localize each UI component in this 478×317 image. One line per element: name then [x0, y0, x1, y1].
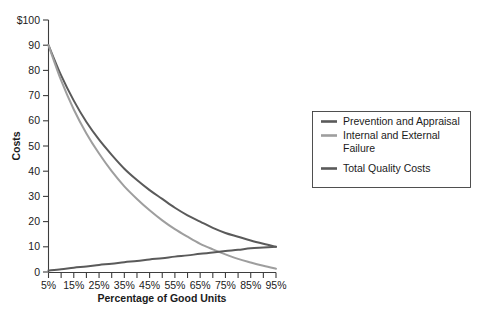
quality-cost-line-chart: $1009080706050403020100 Costs 5%15%25%35… — [0, 0, 478, 317]
x-tick-label: 55% — [164, 279, 185, 291]
x-tick-label: 45% — [139, 279, 160, 291]
y-axis-title: Costs — [10, 131, 22, 160]
legend-label-text: Failure — [343, 142, 375, 154]
x-tick-label: 75% — [215, 279, 236, 291]
x-tick-label: 35% — [114, 279, 135, 291]
chart-figure-root: $1009080706050403020100 Costs 5%15%25%35… — [0, 0, 478, 317]
y-tick-label: 0 — [34, 266, 40, 278]
y-tick-label: 10 — [28, 240, 40, 252]
y-tick-label: 20 — [28, 215, 40, 227]
x-tick-label: 85% — [240, 279, 261, 291]
y-tick-label: 90 — [28, 39, 40, 51]
x-tick-label: 65% — [190, 279, 211, 291]
x-tick-label: 15% — [63, 279, 84, 291]
plot-area-wrapper: $1009080706050403020100 Costs 5%15%25%35… — [0, 0, 478, 317]
y-tick-label: 70 — [28, 89, 40, 101]
legend-label-text: Prevention and Appraisal — [343, 115, 460, 127]
y-tick-label: 30 — [28, 190, 40, 202]
y-tick-label: 80 — [28, 64, 40, 76]
chart-legend: Prevention and AppraisalInternal and Ext… — [313, 112, 471, 188]
x-axis-tick-labels: 5%15%25%35%45%55%65%75%85%95% — [41, 279, 287, 291]
x-tick-label: 5% — [41, 279, 56, 291]
x-axis-title: Percentage of Good Units — [98, 292, 227, 304]
x-tick-label: 95% — [265, 279, 286, 291]
y-tick-label: 50 — [28, 140, 40, 152]
legend-label-text: Internal and External — [343, 129, 440, 141]
x-tick-label: 25% — [89, 279, 110, 291]
legend-label-text: Total Quality Costs — [343, 162, 431, 174]
y-tick-label: 40 — [28, 165, 40, 177]
y-tick-label: 60 — [28, 114, 40, 126]
y-tick-label: $100 — [17, 14, 41, 26]
